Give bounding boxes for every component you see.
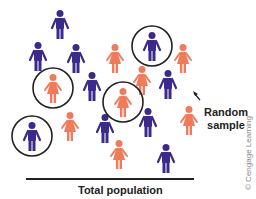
- population-illustration: [0, 0, 256, 199]
- male-figure-icon: [24, 122, 40, 151]
- female-figure-icon: [175, 44, 191, 73]
- female-figure-icon: [111, 140, 127, 169]
- random-sample-label-line1: Random: [204, 106, 248, 119]
- male-figure-icon: [52, 10, 68, 39]
- random-sample-label: Random sample: [204, 106, 248, 132]
- credit-text: © Cengage Learning: [244, 116, 253, 190]
- female-figure-icon: [115, 88, 131, 117]
- random-sample-diagram: Random sample Total population © Cengage…: [0, 0, 256, 199]
- male-figure-icon: [68, 44, 84, 73]
- random-sample-label-line2: sample: [204, 119, 248, 132]
- female-figure-icon: [107, 44, 123, 73]
- male-figure-icon: [140, 108, 156, 137]
- male-figure-icon: [158, 144, 174, 173]
- female-figure-icon: [45, 74, 61, 103]
- female-figure-icon: [181, 106, 197, 135]
- female-figure-icon: [62, 112, 78, 141]
- male-figure-icon: [160, 70, 176, 99]
- male-figure-icon: [144, 32, 160, 61]
- male-figure-icon: [84, 72, 100, 101]
- female-figure-icon: [134, 66, 150, 95]
- male-figure-icon: [30, 42, 46, 71]
- total-population-label: Total population: [78, 184, 163, 196]
